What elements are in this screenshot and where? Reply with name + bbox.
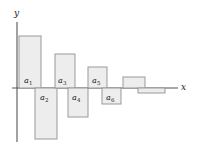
- bar-a3-label: a3: [58, 77, 66, 85]
- bar-a1-label: a1: [24, 77, 32, 85]
- y-axis-label: y: [14, 9, 19, 18]
- alternating-series-plot: [0, 0, 198, 152]
- bar-a7: [123, 77, 145, 88]
- figure-container: y x a1a2a3a4a5a6: [0, 0, 198, 152]
- x-axis-label: x: [181, 83, 186, 92]
- bar-a4-label: a4: [72, 94, 80, 102]
- bars-group: [19, 36, 165, 139]
- bar-a8: [138, 88, 165, 93]
- bar-a2-label: a2: [40, 94, 48, 102]
- bar-a6-label: a6: [106, 94, 114, 102]
- bar-a5-label: a5: [92, 77, 100, 85]
